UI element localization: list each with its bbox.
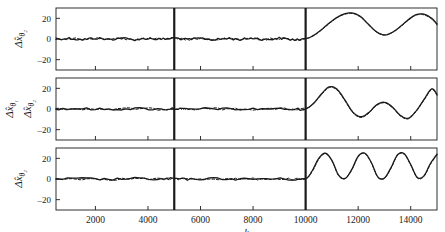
figure-container: 200–20Δx̂θ₂200–20Δx̂θ₁Δx̂θ₂200–20Δx̂θ₂20…	[0, 0, 445, 232]
y-tick-label: 20	[42, 84, 52, 94]
chart-panel-3: 200–20Δx̂θ₂	[12, 148, 437, 210]
series-line-true	[56, 13, 437, 41]
y-tick-label: 20	[42, 14, 52, 24]
x-axis: 2000400060008000100001200014000k	[86, 215, 423, 232]
series-line-true	[56, 87, 437, 119]
series-line-true	[56, 153, 437, 181]
x-tick-label: 6000	[191, 215, 210, 225]
x-tick-label: 8000	[244, 215, 263, 225]
y-tick-label: 0	[47, 174, 52, 184]
y-tick-label: –20	[37, 55, 52, 65]
y-tick-label: –20	[37, 195, 52, 205]
multi-panel-time-series-chart: 200–20Δx̂θ₂200–20Δx̂θ₁Δx̂θ₂200–20Δx̂θ₂20…	[0, 0, 445, 232]
x-tick-label: 4000	[138, 215, 157, 225]
y-axis-label-text: Δx̂θ₂	[12, 170, 27, 189]
y-axis-label: Δx̂θ₁Δx̂θ₂	[3, 100, 36, 119]
chart-panel-2: 200–20Δx̂θ₁Δx̂θ₂	[3, 78, 437, 140]
y-tick-label: 0	[47, 104, 52, 114]
y-tick-label: 0	[47, 34, 52, 44]
chart-panel-1: 200–20Δx̂θ₂	[12, 8, 437, 70]
y-axis-label: Δx̂θ₂	[12, 170, 27, 189]
x-tick-label: 2000	[86, 215, 105, 225]
y-axis-label-text: Δx̂θ₂	[21, 100, 36, 119]
y-axis-label-text: Δx̂θ₂	[12, 30, 27, 49]
x-tick-label: 10000	[294, 215, 318, 225]
y-axis-label-text: Δx̂θ₁	[3, 100, 18, 119]
x-tick-label: 12000	[346, 215, 370, 225]
y-axis-label: Δx̂θ₂	[12, 30, 27, 49]
series-line-estimate	[56, 13, 437, 40]
x-axis-label: k	[244, 227, 249, 232]
x-tick-label: 14000	[399, 215, 423, 225]
y-tick-label: 20	[42, 154, 52, 164]
y-tick-label: –20	[37, 125, 52, 135]
series-line-estimate	[56, 153, 437, 180]
